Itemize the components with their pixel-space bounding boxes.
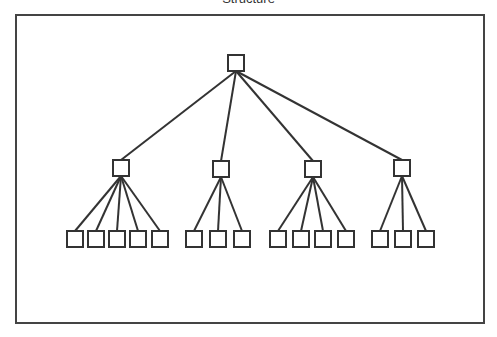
leaf-node: [315, 231, 331, 247]
branch-node: [394, 160, 410, 176]
leaf-node: [338, 231, 354, 247]
edge: [221, 177, 242, 231]
edge: [121, 176, 160, 231]
edge: [218, 177, 221, 231]
leaf-node: [395, 231, 411, 247]
edge: [75, 176, 121, 231]
branch-node: [113, 160, 129, 176]
leaf-node: [152, 231, 168, 247]
leaf-node: [130, 231, 146, 247]
leaf-node: [234, 231, 250, 247]
edge: [121, 176, 138, 231]
edge: [402, 176, 426, 231]
leaf-node: [270, 231, 286, 247]
leaf-node: [418, 231, 434, 247]
edge: [380, 176, 402, 231]
tree-diagram: [0, 0, 497, 337]
edge: [221, 71, 236, 161]
leaf-node: [293, 231, 309, 247]
branch-node: [305, 161, 321, 177]
leaf-node: [372, 231, 388, 247]
leaf-node: [109, 231, 125, 247]
leaf-node: [186, 231, 202, 247]
edge: [236, 71, 313, 161]
edge: [236, 71, 402, 160]
leaf-node: [67, 231, 83, 247]
leaf-node: [210, 231, 226, 247]
edge: [194, 177, 221, 231]
root-node: [228, 55, 244, 71]
edge: [121, 71, 236, 160]
branch-node: [213, 161, 229, 177]
edge: [402, 176, 403, 231]
leaf-node: [88, 231, 104, 247]
